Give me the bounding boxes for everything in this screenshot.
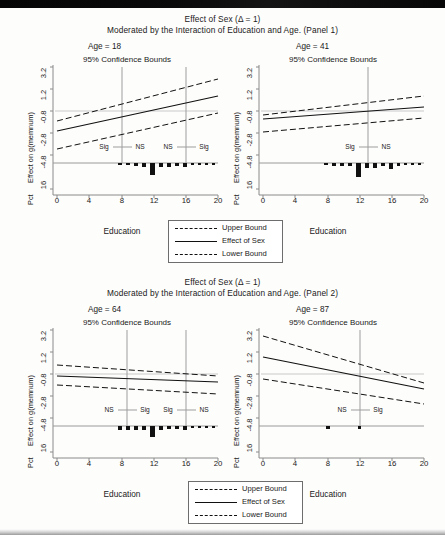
legend-label-upper-bound-2: Upper Bound: [242, 484, 287, 493]
legend-item-upper-bound: Upper Bound: [169, 221, 282, 234]
panel-1: Effect of Sex (Δ = 1) Moderated by the I…: [0, 14, 445, 205]
plot-age-87: 95% Confidence Bounds Effect on g(memnum…: [228, 318, 428, 468]
plot-age-41-ylabel: Effect on g(memnum): [232, 112, 241, 183]
plot-age-18-ylabel: Effect on g(memnum): [26, 112, 35, 183]
panel-2-plots: 95% Confidence Bounds Effect on g(memnum…: [0, 318, 445, 468]
svg-text:3.2: 3.2: [245, 68, 254, 79]
legend-item-upper-bound-2: Upper Bound: [189, 482, 302, 495]
plot-age-41-canvas: 3.2 1.2 -0.8 -2.8 -4.8 16: [228, 55, 428, 205]
xtick-12: 12: [144, 196, 164, 205]
svg-text:-4.8: -4.8: [245, 155, 254, 168]
plot-age-64-ylabel: Effect on g(memnum): [26, 375, 35, 446]
svg-text:-2.8: -2.8: [39, 396, 48, 409]
legend-label-effect-of-sex: Effect of Sex: [222, 236, 265, 245]
panel-1-title-line2: Moderated by the Interaction of Educatio…: [0, 25, 445, 36]
ytick--4.8: -4.8: [39, 155, 48, 168]
svg-text:Sig: Sig: [345, 143, 355, 151]
ytick-3.2: 3.2: [39, 68, 48, 79]
panel-2-title-line2: Moderated by the Interaction of Educatio…: [0, 288, 445, 299]
svg-text:-0.8: -0.8: [245, 373, 254, 386]
plot-age-18-pct-label: Pct: [26, 194, 35, 205]
xtick-4: 4: [79, 196, 99, 205]
panel-2: Effect of Sex (Δ = 1) Moderated by the I…: [0, 277, 445, 468]
figure-root: Effect of Sex (Δ = 1) Moderated by the I…: [0, 0, 445, 535]
age-label-41: Age = 41: [296, 42, 329, 51]
ytick--2.8: -2.8: [39, 133, 48, 146]
panel-1-plots: 95% Confidence Bounds Effect on g(memnum…: [0, 55, 445, 205]
ytick-1.2: 1.2: [39, 90, 48, 101]
svg-text:-0.8: -0.8: [245, 110, 254, 123]
svg-text:16: 16: [39, 444, 48, 452]
ytick--0.8: -0.8: [39, 110, 48, 123]
plot-age-18-canvas: 3.2 1.2 -0.8 -2.8 -4.8 16: [22, 55, 222, 205]
sig-label-right-1: NS: [135, 143, 145, 150]
svg-text:16: 16: [245, 181, 254, 189]
svg-text:-2.8: -2.8: [245, 396, 254, 409]
plot-age-41-pct-label: Pct: [232, 194, 241, 205]
panel-2-title-line1: Effect of Sex (Δ = 1): [0, 277, 445, 288]
plot-age-64-pct-label: Pct: [26, 457, 35, 468]
svg-text:Sig: Sig: [140, 406, 150, 414]
panel-2-age-labels: Age = 64 Age = 87: [0, 305, 445, 318]
legend-item-effect-of-sex-2: Effect of Sex: [189, 495, 302, 508]
svg-text:NS: NS: [199, 406, 209, 413]
sig-label-left-1: Sig: [99, 143, 109, 151]
svg-text:-4.8: -4.8: [245, 418, 254, 431]
scan-artifact-bottom: [0, 529, 445, 535]
svg-text:Sig: Sig: [163, 406, 173, 414]
plot-age-87-pct-label: Pct: [232, 457, 241, 468]
xtick-20: 20: [208, 196, 228, 205]
plot-age-87-ylabel: Effect on g(memnum): [232, 375, 241, 446]
legend-label-upper-bound: Upper Bound: [222, 223, 267, 232]
ytick-16: 16: [39, 181, 48, 189]
plot-age-41: 95% Confidence Bounds Effect on g(memnum…: [228, 55, 428, 205]
svg-text:Sig: Sig: [373, 406, 383, 414]
plot-age-87-canvas: 3.2 1.2 -0.8 -2.8 -4.8 16: [228, 318, 428, 468]
svg-text:NS: NS: [381, 143, 391, 150]
svg-text:1.2: 1.2: [245, 353, 254, 364]
plot-age-18-subtitle: 95% Confidence Bounds: [62, 55, 192, 64]
legend-label-effect-of-sex-2: Effect of Sex: [242, 497, 285, 506]
age-label-18: Age = 18: [88, 42, 121, 51]
legend-item-lower-bound-2: Lower Bound: [189, 508, 302, 521]
panel-1-age-labels: Age = 18 Age = 41: [0, 42, 445, 55]
age-label-64: Age = 64: [88, 305, 121, 314]
xtick-0: 0: [47, 196, 67, 205]
plot-age-18: 95% Confidence Bounds Effect on g(memnum…: [22, 55, 222, 205]
svg-text:-4.8: -4.8: [39, 418, 48, 431]
plot-age-64: 95% Confidence Bounds Effect on g(memnum…: [22, 318, 222, 468]
xlabel-age-64: Education: [72, 489, 172, 499]
svg-text:NS: NS: [337, 406, 347, 413]
plot-age-87-subtitle: 95% Confidence Bounds: [268, 318, 398, 327]
plot-age-64-subtitle: 95% Confidence Bounds: [62, 318, 192, 327]
legend-item-lower-bound: Lower Bound: [169, 247, 282, 260]
age-label-87: Age = 87: [296, 305, 329, 314]
legend-panel-2: Upper Bound Effect of Sex Lower Bound: [188, 481, 303, 524]
xlabel-age-41: Education: [278, 226, 378, 236]
legend-label-lower-bound: Lower Bound: [222, 249, 267, 258]
xlabel-age-18: Education: [72, 226, 172, 236]
xtick-8: 8: [112, 196, 132, 205]
svg-text:3.2: 3.2: [39, 331, 48, 342]
legend-panel-1: Upper Bound Effect of Sex Lower Bound: [168, 220, 283, 263]
legend-item-effect-of-sex: Effect of Sex: [169, 234, 282, 247]
xtick-16: 16: [176, 196, 196, 205]
sig-label-right-2: Sig: [199, 143, 209, 151]
sig-label-left-2: NS: [163, 143, 173, 150]
svg-text:3.2: 3.2: [245, 331, 254, 342]
panel-1-title-line1: Effect of Sex (Δ = 1): [0, 14, 445, 25]
svg-text:16: 16: [245, 444, 254, 452]
legend-label-lower-bound-2: Lower Bound: [242, 510, 287, 519]
svg-text:NS: NS: [104, 406, 114, 413]
svg-text:-2.8: -2.8: [245, 133, 254, 146]
plot-age-64-canvas: 3.2 1.2 -0.8 -2.8 -4.8 16: [22, 318, 222, 468]
plot-age-41-subtitle: 95% Confidence Bounds: [268, 55, 398, 64]
svg-text:1.2: 1.2: [245, 90, 254, 101]
scan-artifact-top: [0, 0, 445, 8]
svg-text:1.2: 1.2: [39, 353, 48, 364]
svg-text:-0.8: -0.8: [39, 373, 48, 386]
